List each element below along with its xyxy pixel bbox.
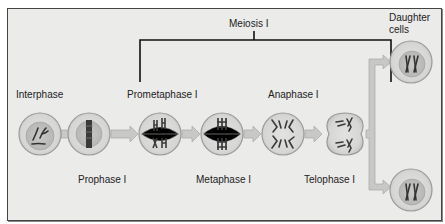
split-arrow-icon <box>366 55 391 194</box>
arrow-icon <box>305 126 322 142</box>
arrow-icon <box>111 126 138 142</box>
anaphase-cell-icon <box>262 113 304 155</box>
telophase-cell-icon <box>327 113 363 155</box>
interphase-cell-icon <box>19 113 61 155</box>
metaphase-cell-icon <box>201 113 243 155</box>
prometaphase-cell-icon <box>139 113 181 155</box>
meiosis-label: Meiosis I <box>229 18 268 29</box>
daughter-label-line2: cells <box>389 24 430 36</box>
prophase-cell-icon <box>68 113 110 155</box>
meiosis-bracket <box>140 31 391 82</box>
arrow-icon <box>244 126 261 142</box>
daughter-cells-label: Daughter cells <box>389 12 430 36</box>
anaphase-label: Anaphase I <box>268 89 319 100</box>
prometaphase-label: Prometaphase I <box>127 89 198 100</box>
meiosis-diagram <box>0 0 445 224</box>
prophase-label: Prophase I <box>78 174 126 185</box>
metaphase-label: Metaphase I <box>196 174 251 185</box>
interphase-label: Interphase <box>16 89 63 100</box>
daughter-label-line1: Daughter <box>389 12 430 24</box>
daughter-cell-top-icon <box>390 41 432 83</box>
telophase-label: Telophase I <box>304 174 355 185</box>
arrow-icon <box>182 126 200 142</box>
daughter-cell-bottom-icon <box>390 169 432 211</box>
